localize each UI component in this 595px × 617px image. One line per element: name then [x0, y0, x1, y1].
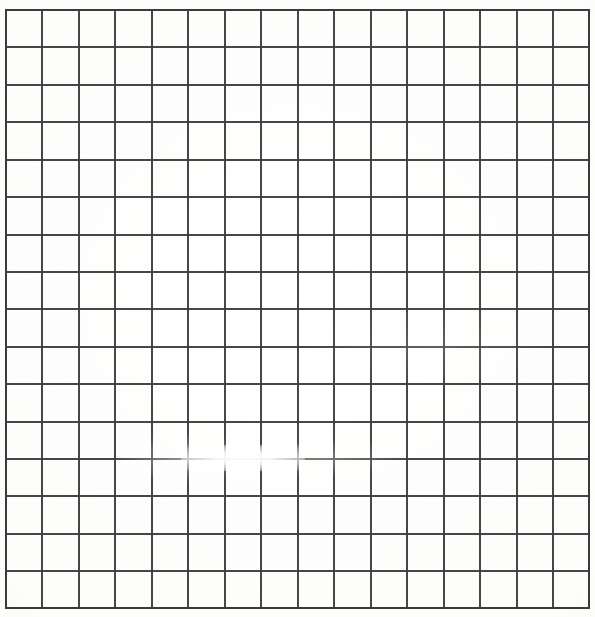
grid-line-horizontal	[5, 84, 590, 86]
grid-line-horizontal	[5, 9, 590, 11]
grid-line-horizontal	[5, 121, 590, 123]
grid-line-horizontal	[5, 346, 590, 348]
grid-line-horizontal	[5, 46, 590, 48]
grid-line-horizontal	[5, 234, 590, 236]
grid-line-horizontal	[5, 495, 590, 497]
grid-line-horizontal	[5, 533, 590, 535]
grid-line-horizontal	[5, 308, 590, 310]
grid-line-horizontal	[5, 159, 590, 161]
grid-line-horizontal	[5, 421, 590, 423]
grid-line-horizontal	[5, 196, 590, 198]
grid-line-horizontal	[5, 383, 590, 385]
grid-line-horizontal	[5, 570, 590, 572]
grid-line-horizontal	[5, 271, 590, 273]
grid-line-horizontal	[5, 607, 590, 609]
grid-lines-layer	[0, 0, 595, 617]
grid-line-horizontal	[5, 458, 590, 460]
grid-page: A blank 16 by 16 square grid drawn in da…	[0, 0, 595, 617]
